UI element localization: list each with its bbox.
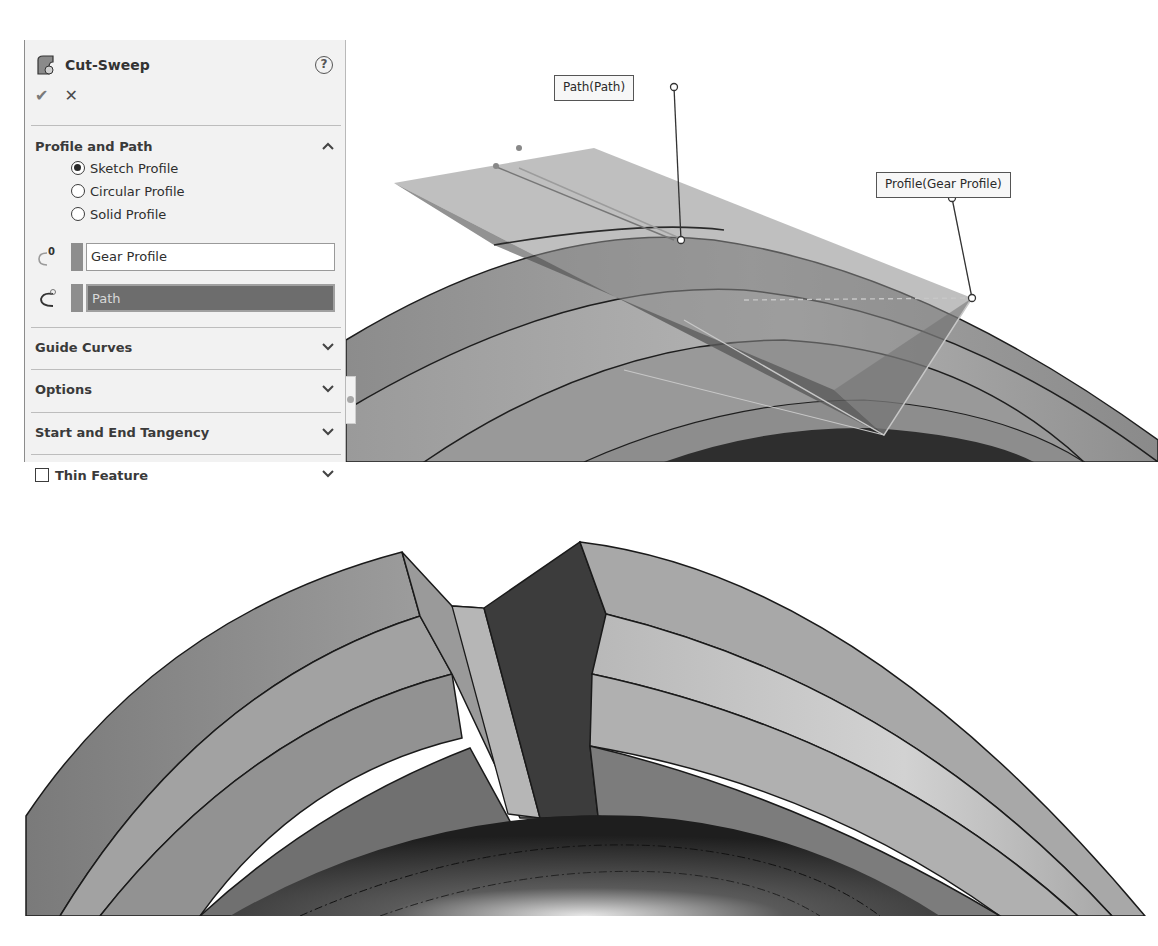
path-selection-box[interactable]: Path xyxy=(86,284,335,312)
radio-label: Sketch Profile xyxy=(90,161,178,176)
section-options[interactable]: Options xyxy=(35,379,335,399)
cut-sweep-property-manager: Cut-Sweep ? ✔ ✕ Profile and Path Sketch … xyxy=(24,40,346,462)
divider xyxy=(31,454,341,455)
thin-feature-toggle[interactable]: Thin Feature xyxy=(35,465,148,484)
radio-label: Solid Profile xyxy=(90,207,166,222)
divider xyxy=(31,327,341,328)
chevron-down-icon[interactable] xyxy=(321,342,335,352)
section-start-end-tangency[interactable]: Start and End Tangency xyxy=(35,422,335,442)
gear-result-model xyxy=(26,542,1145,916)
divider xyxy=(31,125,341,126)
profile-selection-box[interactable]: Gear Profile xyxy=(86,243,335,271)
radio-button-selected[interactable] xyxy=(71,161,85,175)
chevron-up-icon[interactable] xyxy=(321,141,335,151)
divider xyxy=(31,412,341,413)
pm-actions: ✔ ✕ xyxy=(35,86,78,105)
section-label: Guide Curves xyxy=(35,340,132,355)
section-label: Options xyxy=(35,382,92,397)
splitter-grip-icon xyxy=(347,396,354,403)
cut-sweep-feature-icon xyxy=(35,54,57,76)
radio-circular-profile[interactable]: Circular Profile xyxy=(71,181,185,201)
pm-title: Cut-Sweep xyxy=(65,57,150,73)
profile-selection-row: 0 Gear Profile xyxy=(35,242,335,272)
section-label: Profile and Path xyxy=(35,139,153,154)
radio-button[interactable] xyxy=(71,207,85,221)
radio-sketch-profile[interactable]: Sketch Profile xyxy=(71,158,178,178)
help-icon[interactable]: ? xyxy=(315,56,333,74)
profile-icon: 0 xyxy=(35,245,59,269)
selection-color-swatch xyxy=(71,243,83,271)
section-label: Thin Feature xyxy=(55,468,148,483)
radio-button[interactable] xyxy=(71,184,85,198)
cancel-x-icon[interactable]: ✕ xyxy=(64,86,77,105)
selection-color-swatch xyxy=(71,284,83,312)
section-thin-feature[interactable]: Thin Feature xyxy=(35,464,335,484)
thin-feature-checkbox[interactable] xyxy=(35,468,49,482)
section-label: Start and End Tangency xyxy=(35,425,209,440)
path-selection-row: Path xyxy=(35,283,335,313)
path-icon xyxy=(35,286,59,310)
profile-callout[interactable]: Profile(Gear Profile) xyxy=(876,172,1011,198)
divider xyxy=(31,369,341,370)
chevron-down-icon[interactable] xyxy=(321,427,335,437)
pm-header: Cut-Sweep ? xyxy=(35,54,335,76)
radio-solid-profile[interactable]: Solid Profile xyxy=(71,204,166,224)
panel-splitter-handle[interactable] xyxy=(346,376,356,424)
section-guide-curves[interactable]: Guide Curves xyxy=(35,337,335,357)
chevron-down-icon[interactable] xyxy=(321,384,335,394)
gear-cut-result-view xyxy=(0,516,1158,916)
section-profile-and-path[interactable]: Profile and Path xyxy=(35,136,335,156)
ok-check-icon[interactable]: ✔ xyxy=(35,86,48,105)
radio-label: Circular Profile xyxy=(90,184,185,199)
svg-text:0: 0 xyxy=(48,246,55,257)
path-callout[interactable]: Path(Path) xyxy=(554,75,634,101)
chevron-down-icon[interactable] xyxy=(321,469,335,479)
